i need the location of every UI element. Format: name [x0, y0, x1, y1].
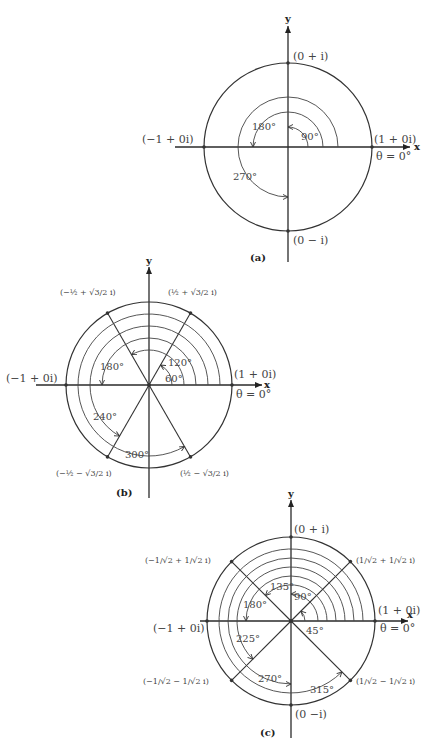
unit-circle-figures: x y 90° 180° 270° (0 + i) (0 − i) (−1 + …: [0, 0, 437, 742]
angle-label-300: 300°: [125, 449, 149, 460]
angle-label-270: 270°: [233, 171, 257, 182]
point-label-upper-right: (1/√2 + 1/√2 i): [356, 556, 415, 565]
angle-label-135: 135°: [270, 581, 294, 592]
point-label-lower-left: (−1/√2 − 1/√2 i): [143, 677, 209, 686]
angle-label-120: 120°: [168, 357, 192, 368]
point-label-top: (0 + i): [293, 50, 328, 63]
point-label-right: (1 + 0i): [234, 368, 276, 381]
angle-label-180: 180°: [243, 599, 267, 610]
point-label-left: (−1 + 0i): [6, 372, 58, 385]
y-axis-label: y: [284, 13, 292, 24]
angle-label-90: 90°: [294, 591, 312, 602]
caption-a: (a): [250, 252, 266, 263]
point-label-top: (0 + i): [294, 523, 329, 536]
point-label-upper-left: (−1/√2 + 1/√2 i): [145, 556, 211, 565]
angle-label-225: 225°: [236, 633, 260, 644]
point-label-lower-left: (−½ − √3/2 i): [56, 469, 112, 478]
point-label-left: (−1 + 0i): [153, 622, 205, 635]
angle-arc-45: [301, 611, 305, 621]
angle-label-240: 240°: [93, 411, 117, 422]
angle-label-60: 60°: [165, 373, 183, 384]
y-axis-label: y: [287, 488, 295, 499]
figure-c: x y 45° 90° 135° 180° 225° 270° 315° (0 …: [143, 488, 420, 738]
point-label-bottom: (0 −i): [295, 708, 327, 721]
point-label-left: (−1 + 0i): [142, 133, 194, 146]
point-label-lower-right: (1/√2 − 1/√2 i): [356, 677, 415, 686]
point-label-lower-right: (½ − √3/2 i): [180, 469, 229, 478]
theta-label: θ = 0°: [380, 622, 415, 635]
angle-label-180: 180°: [252, 121, 276, 132]
figure-b: x y 60° 120° 180° 240° 300° (−1 + 0i) (1…: [6, 255, 276, 498]
theta-label: θ = 0°: [376, 150, 411, 163]
theta-label: θ = 0°: [236, 388, 271, 401]
point-label-bottom: (0 − i): [293, 234, 328, 247]
angle-label-90: 90°: [301, 131, 319, 142]
point-label-upper-left: (−½ + √3/2 i): [60, 288, 116, 297]
caption-b: (b): [116, 487, 132, 498]
point-label-upper-right: (½ + √3/2 i): [168, 288, 217, 297]
y-axis-label: y: [145, 255, 153, 266]
angle-label-315: 315°: [310, 684, 334, 695]
point-label-right: (1 + 0i): [378, 604, 420, 617]
figure-a: x y 90° 180° 270° (0 + i) (0 − i) (−1 + …: [142, 13, 421, 263]
point-label-right: (1 + 0i): [374, 133, 416, 146]
angle-label-180: 180°: [100, 361, 124, 372]
angle-label-270: 270°: [258, 673, 282, 684]
caption-c: (c): [260, 727, 276, 738]
angle-label-45: 45°: [306, 625, 324, 636]
